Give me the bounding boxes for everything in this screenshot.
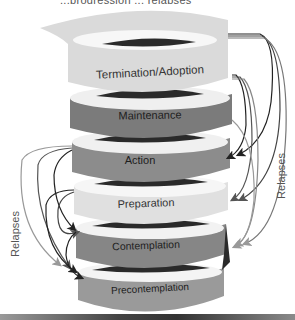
relapses-label-left: Relapses <box>9 211 21 257</box>
stage-label-action: Action <box>60 154 220 166</box>
stages-of-change-spiral-diagram: ...progression ... relapses <box>0 0 295 320</box>
right-relapse-arrows <box>228 34 286 247</box>
bottom-edge-bar <box>0 314 295 320</box>
diagram-title-cropped: ...progression ... relapses <box>60 0 295 4</box>
band-termination-adoption <box>40 11 228 92</box>
relapses-label-right: Relapses <box>275 153 287 199</box>
